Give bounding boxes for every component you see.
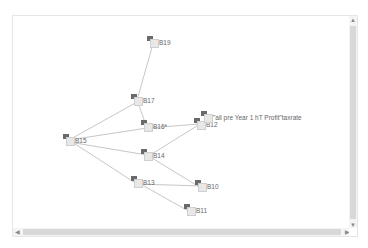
node-label: "all pre Year 1 hT Profit"taxrate [213, 114, 302, 121]
scroll-left-arrow-icon[interactable]: ◀ [13, 228, 21, 236]
cell-node-icon [201, 111, 212, 122]
cell-node-icon [184, 204, 195, 215]
cell-node-icon [141, 120, 152, 131]
diagram-frame: B19B17B16*B15B14B13B10B11B12"all pre Yea… [12, 15, 358, 237]
node-label: B13 [143, 179, 155, 186]
node-b13[interactable]: B13 [131, 176, 155, 187]
node-label: B14 [153, 152, 165, 159]
node-label: B10 [207, 183, 219, 190]
node-b17[interactable]: B17 [131, 94, 155, 105]
cell-node-icon [131, 94, 142, 105]
cell-node-icon [195, 180, 206, 191]
scroll-corner [349, 228, 357, 236]
cell-node-icon [141, 149, 152, 160]
cell-node-icon [147, 36, 158, 47]
node-label: B16* [153, 123, 167, 130]
edge-b17-b19 [137, 44, 153, 100]
horizontal-scrollbar[interactable]: ◀ ▶ [13, 228, 351, 236]
node-b10[interactable]: B10 [195, 180, 219, 191]
node-b15[interactable]: B15 [63, 134, 87, 145]
node-b11[interactable]: B11 [184, 204, 207, 215]
cell-node-icon [63, 134, 74, 145]
node-label: B15 [75, 137, 87, 144]
node-taxrate[interactable]: "all pre Year 1 hT Profit"taxrate [201, 111, 302, 122]
node-b16[interactable]: B16* [141, 120, 167, 131]
cell-node-icon [131, 176, 142, 187]
node-b19[interactable]: B19 [147, 36, 171, 47]
node-label: B19 [159, 39, 171, 46]
node-b14[interactable]: B14 [141, 149, 165, 160]
edge-b15-b13 [69, 140, 137, 184]
vertical-scroll-thumb[interactable] [350, 26, 356, 219]
diagram-canvas[interactable]: B19B17B16*B15B14B13B10B11B12"all pre Yea… [13, 16, 351, 229]
node-label: B17 [143, 97, 155, 104]
vertical-scrollbar[interactable]: ▲ ▼ [349, 16, 357, 229]
node-label: B11 [196, 207, 207, 214]
horizontal-scroll-thumb[interactable] [23, 229, 341, 235]
scroll-up-arrow-icon[interactable]: ▲ [349, 16, 357, 24]
edges-layer [13, 16, 351, 229]
